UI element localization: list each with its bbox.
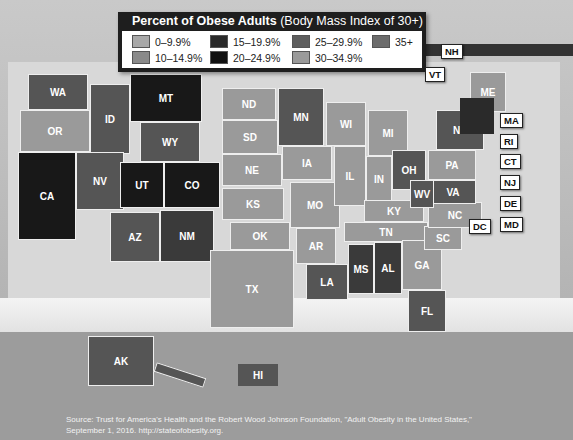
state-label: TX (246, 284, 259, 295)
callout-CT: CT (500, 154, 521, 169)
callout-DE: DE (500, 196, 521, 211)
state-label: KS (246, 199, 260, 210)
state-label: IA (302, 158, 312, 169)
state-WI: WI (326, 102, 366, 146)
state-label: WI (340, 119, 352, 130)
state-label: OR (48, 126, 63, 137)
state-CA: CA (18, 152, 76, 240)
state-label: IN (374, 174, 384, 185)
state-label: HI (253, 370, 263, 381)
state-label: OK (253, 231, 268, 242)
state-NE: NE (222, 154, 282, 186)
state-IL: IL (334, 146, 366, 206)
state-label: AR (309, 241, 323, 252)
state-MT: MT (130, 74, 202, 122)
state-MN: MN (278, 88, 324, 146)
state-HI: HI (238, 364, 278, 386)
state-label: CA (40, 191, 54, 202)
state-ID: ID (90, 84, 130, 154)
state-IN: IN (366, 156, 392, 202)
legend-item: 10–14.9% (132, 51, 210, 64)
callout-NH: NH (441, 44, 463, 59)
callout-RI: RI (500, 134, 518, 149)
callout-DC: DC (469, 219, 491, 234)
legend: Percent of Obese Adults (Body Mass Index… (118, 12, 426, 72)
legend-swatch (210, 35, 228, 48)
state-AR: AR (296, 228, 336, 264)
state-label: IL (346, 171, 355, 182)
legend-title-bold: Percent of Obese Adults (132, 14, 277, 28)
legend-title: Percent of Obese Adults (Body Mass Index… (122, 12, 422, 31)
state-OR: OR (20, 110, 90, 152)
state-UT: UT (120, 162, 164, 208)
state-label: NM (179, 231, 195, 242)
state-FL: FL (408, 290, 446, 332)
legend-item: 15–19.9% (210, 35, 292, 48)
state-label: AL (381, 263, 394, 274)
legend-item: 25–29.9% (292, 35, 372, 48)
legend-label: 10–14.9% (155, 52, 202, 64)
callout-NJ: NJ (500, 175, 520, 190)
legend-title-rest: (Body Mass Index of 30+) (277, 14, 423, 28)
state-KS: KS (222, 188, 284, 220)
legend-swatch (132, 51, 150, 64)
legend-swatch (292, 35, 310, 48)
state-label: CO (185, 180, 200, 191)
state-label: LA (320, 277, 333, 288)
state-LA: LA (306, 264, 348, 300)
state-label: AZ (128, 232, 141, 243)
state-label: WV (414, 189, 430, 200)
legend-item: 35+ (372, 35, 422, 48)
legend-item: 20–24.9% (210, 51, 292, 64)
state-label: SC (436, 233, 450, 244)
state-label: NC (448, 210, 462, 221)
source-line-2: September 1, 2016. http://stateofobesity… (66, 425, 566, 436)
state-label: MN (293, 112, 309, 123)
state-ND: ND (222, 88, 276, 120)
legend-label: 20–24.9% (233, 52, 280, 64)
state-label: MI (382, 128, 393, 139)
legend-swatch (132, 35, 150, 48)
source-citation: Source: Trust for America's Health and t… (66, 414, 566, 436)
state-label: ID (105, 114, 115, 125)
callout-VT: VT (425, 67, 445, 82)
state-TX: TX (210, 250, 294, 328)
state-SD: SD (222, 120, 278, 154)
state-label: WY (162, 137, 178, 148)
state-label: PA (445, 160, 458, 171)
legend-swatch (372, 35, 390, 48)
callout-MA: MA (500, 113, 523, 128)
state-label: ND (242, 99, 256, 110)
legend-swatch (210, 51, 228, 64)
state-NM: NM (160, 210, 214, 262)
new-england-small-states (460, 98, 494, 134)
state-WY: WY (140, 122, 200, 162)
state-label: MO (307, 200, 323, 211)
state-label: OH (402, 165, 417, 176)
state-label: ME (481, 87, 496, 98)
state-label: AK (114, 356, 128, 367)
state-label: TN (379, 227, 392, 238)
state-WV: WV (410, 180, 434, 208)
state-SC: SC (424, 226, 462, 250)
state-AK: AK (88, 336, 154, 386)
legend-label: 25–29.9% (315, 36, 362, 48)
state-label: MT (159, 93, 173, 104)
state-label: WA (50, 87, 66, 98)
state-AL: AL (374, 242, 402, 294)
legend-item: 30–34.9% (292, 51, 372, 64)
source-line-1: Source: Trust for America's Health and t… (66, 414, 566, 425)
state-WA: WA (28, 74, 88, 110)
legend-swatch (292, 51, 310, 64)
state-TN: TN (344, 222, 428, 242)
state-label: FL (421, 306, 433, 317)
legend-item: 0–9.9% (132, 35, 210, 48)
state-IA: IA (282, 146, 332, 180)
state-label: KY (387, 206, 401, 217)
state-label: NE (245, 165, 259, 176)
state-label: MS (354, 264, 369, 275)
state-AZ: AZ (110, 212, 160, 262)
state-VA: VA (430, 180, 476, 204)
legend-label: 35+ (395, 36, 413, 48)
state-label: NV (93, 176, 107, 187)
